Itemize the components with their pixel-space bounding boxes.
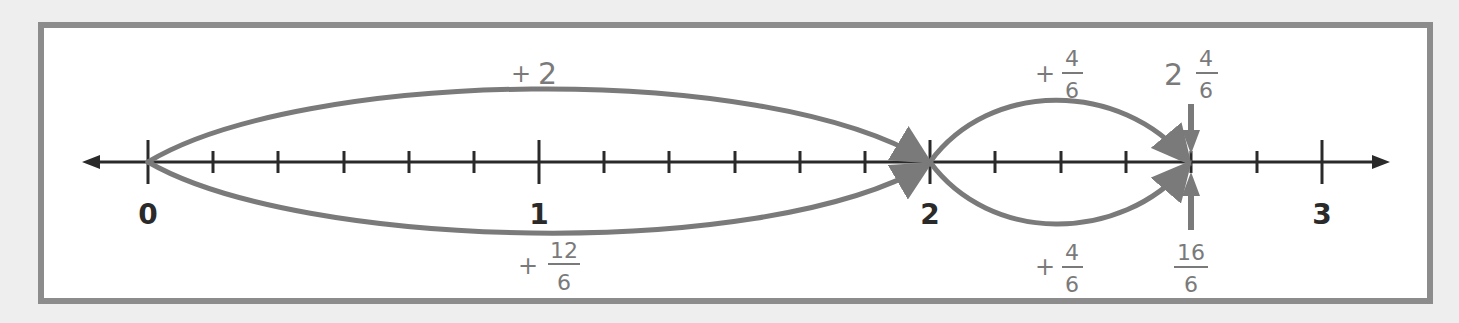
svg-text:+: + xyxy=(1035,253,1055,281)
tick-label-2: 2 xyxy=(920,198,939,231)
label-sixteen-sixths: 16 6 xyxy=(1174,240,1208,297)
svg-text:6: 6 xyxy=(557,270,571,295)
label-top-plus-4-sixths: + 4 6 xyxy=(1035,46,1083,103)
bottom-jump-arc-2-to-2-4-6 xyxy=(930,162,1187,224)
down-arrow-icon xyxy=(1182,130,1200,154)
svg-text:6: 6 xyxy=(1184,272,1198,297)
top-jump-arc-0-to-2 xyxy=(148,89,926,162)
svg-text:4: 4 xyxy=(1199,46,1213,71)
label-plus-2: + 2 xyxy=(511,56,557,91)
arrow-left-icon xyxy=(82,155,100,169)
svg-text:4: 4 xyxy=(1065,46,1079,71)
svg-text:6: 6 xyxy=(1065,78,1079,103)
up-arrow-icon xyxy=(1182,172,1200,196)
svg-text:2: 2 xyxy=(1164,57,1183,92)
svg-text:+: + xyxy=(1035,60,1055,88)
svg-text:+: + xyxy=(511,60,531,88)
arrow-right-icon xyxy=(1372,155,1390,169)
svg-text:+: + xyxy=(518,252,538,280)
label-plus-12-sixths: + 12 6 xyxy=(518,238,580,295)
svg-text:16: 16 xyxy=(1177,240,1205,265)
label-two-and-four-sixths: 2 4 6 xyxy=(1164,46,1218,103)
number-line-diagram: 0 1 2 3 + 2 + 12 6 + 4 6 + 4 xyxy=(0,0,1459,323)
label-bottom-plus-4-sixths: + 4 6 xyxy=(1035,240,1083,297)
svg-text:6: 6 xyxy=(1199,78,1213,103)
tick-label-3: 3 xyxy=(1312,198,1331,231)
svg-text:6: 6 xyxy=(1065,272,1079,297)
svg-text:2: 2 xyxy=(538,56,557,91)
top-jump-arc-2-to-2-4-6 xyxy=(930,100,1187,162)
svg-text:4: 4 xyxy=(1065,240,1079,265)
svg-text:12: 12 xyxy=(550,238,578,263)
tick-label-1: 1 xyxy=(529,198,548,231)
tick-label-0: 0 xyxy=(138,198,157,231)
